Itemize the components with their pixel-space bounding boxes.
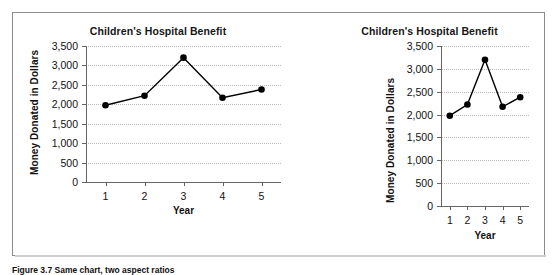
- data-point: [517, 94, 524, 101]
- x-tick-mark: [223, 182, 224, 186]
- x-tick-label: 1: [447, 214, 453, 226]
- x-tick-label: 1: [103, 190, 109, 202]
- x-tick-mark: [520, 206, 521, 210]
- x-tick-mark: [467, 206, 468, 210]
- y-tick-label: 1,000: [407, 154, 433, 166]
- chart-narrow-y-axis-label: Money Donated in Dollars: [385, 78, 396, 203]
- x-tick-label: 5: [517, 214, 523, 226]
- chart-wide-plot-area: 05001,0001,5002,0002,5003,0003,50012345: [86, 46, 281, 182]
- data-point: [102, 102, 109, 109]
- data-series: [441, 46, 529, 206]
- y-tick-label: 0: [427, 200, 433, 212]
- x-tick-label: 4: [500, 214, 506, 226]
- chart-narrow-x-axis-label: Year: [441, 230, 529, 241]
- data-point: [258, 86, 265, 93]
- x-tick-label: 3: [482, 214, 488, 226]
- y-tick-label: 2,000: [407, 109, 433, 121]
- chart-wide-title: Children's Hospital Benefit: [13, 25, 303, 37]
- figure-frame: Children's Hospital Benefit Money Donate…: [12, 12, 545, 256]
- y-tick-label: 0: [72, 176, 78, 188]
- y-tick-label: 3,000: [52, 59, 78, 71]
- data-point: [482, 56, 489, 63]
- y-tick-label: 2,500: [52, 79, 78, 91]
- x-tick-label: 5: [259, 190, 265, 202]
- x-tick-mark: [145, 182, 146, 186]
- y-tick-label: 2,000: [52, 98, 78, 110]
- data-point: [180, 54, 187, 61]
- y-tick-label: 1,500: [407, 131, 433, 143]
- x-tick-label: 2: [142, 190, 148, 202]
- data-point: [447, 112, 454, 119]
- data-point: [464, 101, 471, 108]
- y-tick-label: 2,500: [407, 86, 433, 98]
- x-tick-mark: [106, 182, 107, 186]
- x-tick-label: 4: [220, 190, 226, 202]
- chart-narrow: Children's Hospital Benefit Money Donate…: [313, 13, 546, 255]
- y-tick-label: 3,000: [407, 63, 433, 75]
- y-tick-label: 3,500: [407, 40, 433, 52]
- chart-wide-x-axis-label: Year: [86, 205, 281, 216]
- y-tick-label: 500: [415, 177, 433, 189]
- x-tick-label: 2: [464, 214, 470, 226]
- y-tick-label: 1,500: [52, 118, 78, 130]
- data-series: [86, 46, 281, 182]
- y-tick-label: 500: [60, 157, 78, 169]
- chart-wide: Children's Hospital Benefit Money Donate…: [13, 13, 303, 255]
- figure-caption: Figure 3.7 Same chart, two aspect ratios: [12, 265, 175, 275]
- x-tick-mark: [262, 182, 263, 186]
- y-tick-label: 3,500: [52, 40, 78, 52]
- x-tick-mark: [184, 182, 185, 186]
- chart-narrow-plot-area: 05001,0001,5002,0002,5003,0003,50012345: [441, 46, 529, 206]
- data-point: [219, 94, 226, 101]
- x-tick-label: 3: [181, 190, 187, 202]
- data-point: [141, 92, 148, 99]
- y-tick-label: 1,000: [52, 137, 78, 149]
- x-tick-mark: [450, 206, 451, 210]
- x-tick-mark: [503, 206, 504, 210]
- chart-narrow-title: Children's Hospital Benefit: [313, 25, 546, 37]
- chart-wide-y-axis-label: Money Donated in Dollars: [29, 50, 40, 175]
- data-point: [499, 104, 506, 111]
- x-tick-mark: [485, 206, 486, 210]
